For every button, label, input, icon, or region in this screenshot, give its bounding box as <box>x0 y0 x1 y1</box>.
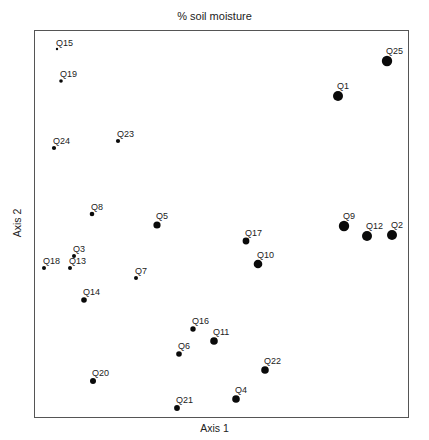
data-point-q2: Q2 <box>387 220 403 240</box>
data-point-q25: Q25 <box>382 46 403 66</box>
point-label: Q10 <box>257 250 274 260</box>
data-point-q11: Q11 <box>210 327 229 345</box>
point-label: Q6 <box>178 341 190 351</box>
data-point-q1: Q1 <box>333 81 349 101</box>
data-point-q17: Q17 <box>243 228 262 245</box>
point-label: Q15 <box>56 38 73 48</box>
data-point-q21: Q21 <box>174 395 193 411</box>
plot-frame <box>35 31 409 418</box>
point-marker <box>261 366 269 374</box>
data-point-q18: Q18 <box>42 256 60 270</box>
point-label: Q3 <box>73 244 85 254</box>
point-marker <box>254 260 263 269</box>
data-point-q5: Q5 <box>153 211 168 228</box>
point-label: Q16 <box>192 316 209 326</box>
point-label: Q25 <box>386 46 403 56</box>
point-marker <box>339 221 349 231</box>
data-point-q7: Q7 <box>134 266 147 280</box>
data-point-q20: Q20 <box>90 368 109 384</box>
point-marker <box>90 212 95 217</box>
point-label: Q24 <box>53 136 70 146</box>
point-marker <box>243 238 250 245</box>
point-marker <box>387 230 397 240</box>
point-marker <box>42 266 46 270</box>
data-point-q24: Q24 <box>52 136 70 150</box>
data-point-q16: Q16 <box>190 316 209 331</box>
point-marker <box>134 276 138 280</box>
data-point-q8: Q8 <box>90 202 103 217</box>
point-label: Q11 <box>213 327 229 337</box>
point-label: Q5 <box>156 211 168 221</box>
data-point-q13: Q13 <box>68 256 86 270</box>
y-axis-label: Axis 2 <box>11 209 23 238</box>
point-marker <box>68 266 72 270</box>
data-point-q22: Q22 <box>261 356 281 374</box>
point-label: Q20 <box>92 368 109 378</box>
point-label: Q22 <box>264 356 281 366</box>
point-marker <box>232 395 240 403</box>
point-label: Q1 <box>337 81 349 91</box>
point-label: Q8 <box>91 202 103 212</box>
point-label: Q4 <box>235 385 247 395</box>
point-marker <box>116 139 120 143</box>
data-point-q6: Q6 <box>176 341 190 357</box>
data-point-q15: Q15 <box>56 38 73 50</box>
data-point-q9: Q9 <box>339 211 355 231</box>
point-label: Q7 <box>135 266 147 276</box>
point-label: Q13 <box>69 256 86 266</box>
point-marker <box>174 405 180 411</box>
point-marker <box>56 48 58 50</box>
data-point-q23: Q23 <box>116 129 134 143</box>
point-label: Q2 <box>391 220 403 230</box>
data-point-q19: Q19 <box>59 69 77 83</box>
data-point-q12: Q12 <box>362 221 383 241</box>
point-label: Q18 <box>43 256 60 266</box>
point-marker <box>52 146 56 150</box>
point-marker <box>190 326 195 331</box>
x-axis-label: Axis 1 <box>0 422 429 434</box>
scatter-chart: % soil moisture Q15Q19Q24Q23Q8Q5Q3Q18Q13… <box>0 0 429 440</box>
data-point-q4: Q4 <box>232 385 247 403</box>
point-marker <box>153 221 160 228</box>
plot-area: Q15Q19Q24Q23Q8Q5Q3Q18Q13Q7Q14Q17Q10Q9Q12… <box>0 0 429 440</box>
point-label: Q19 <box>60 69 77 79</box>
point-marker <box>59 79 63 83</box>
point-label: Q17 <box>245 228 262 238</box>
point-label: Q23 <box>117 129 134 139</box>
point-marker <box>210 337 218 345</box>
data-point-q14: Q14 <box>81 287 100 303</box>
point-label: Q14 <box>83 287 100 297</box>
data-point-q10: Q10 <box>254 250 274 269</box>
point-marker <box>90 378 96 384</box>
point-marker <box>333 91 343 101</box>
point-marker <box>176 351 182 357</box>
point-marker <box>382 56 392 66</box>
point-label: Q21 <box>176 395 193 405</box>
point-marker <box>81 297 87 303</box>
point-label: Q12 <box>366 221 383 231</box>
point-marker <box>362 231 372 241</box>
points-layer: Q15Q19Q24Q23Q8Q5Q3Q18Q13Q7Q14Q17Q10Q9Q12… <box>42 38 403 411</box>
point-label: Q9 <box>343 211 355 221</box>
